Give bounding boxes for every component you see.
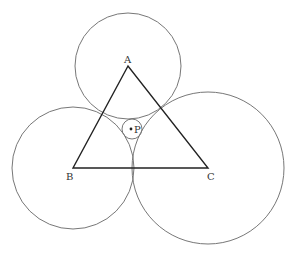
geometry-figure <box>0 0 290 254</box>
label-b: B <box>66 172 73 182</box>
label-p: P <box>134 125 141 135</box>
diagram-canvas: A B C P <box>0 0 290 254</box>
label-a: A <box>124 55 131 65</box>
label-c: C <box>207 172 215 182</box>
point-p-dot <box>130 128 133 131</box>
